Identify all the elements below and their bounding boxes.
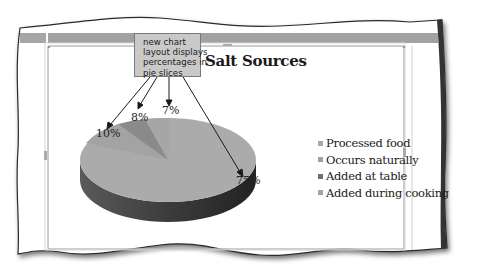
callout-line: pie slices [143,68,196,78]
chart-title: Salt Sources [205,52,307,70]
legend-item-added-during-cooking: Added during cooking [318,185,449,202]
callout-line: layout displays [143,47,196,57]
legend-swatch [318,141,323,146]
callout-annotation: new chart layout displays percentages in… [134,33,201,77]
legend-label: Occurs naturally [326,153,418,167]
legend-swatch [318,157,323,162]
callout-line: new chart [143,37,196,47]
legend-label: Processed food [326,136,410,150]
legend-swatch [318,190,323,195]
label-added-during-cooking: 7% [162,104,179,117]
figure-stage: new chart layout displays percentages in… [0,0,484,276]
label-added-at-table: 8% [131,111,148,124]
legend-swatch [318,174,323,179]
legend-item-processed-food: Processed food [318,135,449,152]
toolbar-bar-left [20,33,46,43]
callout-line: percentages in [143,57,196,67]
label-occurs-naturally: 10% [96,127,120,140]
legend-label: Added during cooking [326,186,449,200]
label-processed-food: 75% [236,174,260,187]
toolbar-bar [48,33,438,43]
legend-label: Added at table [326,169,407,183]
legend-item-occurs-naturally: Occurs naturally [318,152,449,169]
legend-item-added-at-table: Added at table [318,168,449,185]
chart-legend: Processed food Occurs naturally Added at… [318,135,449,201]
